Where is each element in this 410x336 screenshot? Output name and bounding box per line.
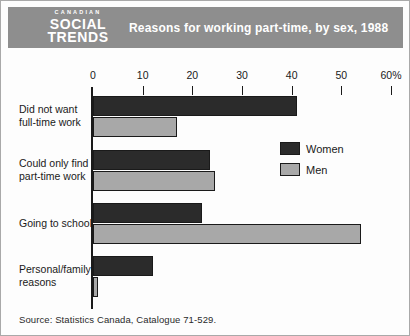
legend-item-women: Women [280, 142, 344, 155]
category-label: Going to school [19, 217, 95, 231]
bar-women-2 [93, 203, 202, 223]
x-axis-tick [242, 86, 243, 95]
x-axis-tick-label: 20 [186, 69, 198, 81]
legend-item-men: Men [280, 163, 327, 176]
x-axis-tick-label: 60% [380, 69, 401, 81]
bar-men-0 [93, 117, 177, 137]
x-axis-tick [341, 86, 342, 95]
source-note: Source: Statistics Canada, Catalogue 71-… [19, 314, 216, 325]
x-axis-tick [192, 86, 193, 95]
x-axis-tick [391, 86, 392, 95]
legend-swatch-men [280, 163, 300, 176]
legend-label-women: Women [306, 143, 344, 155]
x-axis-tick-label: 30 [236, 69, 248, 81]
category-label: Could only find part-time work [19, 157, 95, 184]
legend-label-men: Men [306, 164, 327, 176]
legend-swatch-women [280, 142, 300, 155]
bar-women-3 [93, 256, 153, 276]
bar-women-1 [93, 150, 210, 170]
x-axis-tick [292, 86, 293, 95]
bar-women-0 [93, 96, 297, 116]
category-label: Did not want full-time work [19, 103, 95, 130]
bar-men-3 [93, 277, 98, 297]
x-axis-tick-label: 0 [90, 69, 96, 81]
page: CANADIAN SOCIAL TRENDS Reasons for worki… [0, 0, 410, 336]
x-axis-tick-label: 40 [286, 69, 298, 81]
plot-area: 0102030405060%Did not want full-time wor… [1, 1, 410, 336]
category-label: Personal/family reasons [19, 263, 95, 290]
x-axis-tick-label: 50 [335, 69, 347, 81]
x-axis-tick-label: 10 [137, 69, 149, 81]
bar-men-1 [93, 171, 215, 191]
bar-men-2 [93, 224, 361, 244]
x-axis-tick [143, 86, 144, 95]
